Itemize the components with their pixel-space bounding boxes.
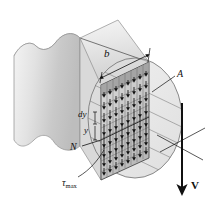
label-top-fiber-a: A xyxy=(177,69,183,79)
tau-subscript: max xyxy=(66,182,77,189)
label-tau-max: τmax xyxy=(62,178,77,188)
label-dy: dy xyxy=(78,110,87,119)
label-neutral-axis-n: N xyxy=(70,142,77,152)
label-y: y xyxy=(84,126,88,135)
beam-side-face xyxy=(14,34,80,151)
figure-canvas xyxy=(0,0,209,203)
label-shear-force-v: V xyxy=(191,180,199,191)
label-width-b: b xyxy=(104,48,110,59)
beam-shear-stress-figure: b A dy y N τmax V xyxy=(0,0,209,203)
